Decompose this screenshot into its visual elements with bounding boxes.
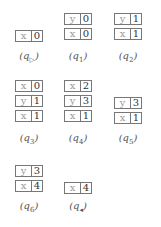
cell: x1 <box>64 110 92 122</box>
cell: y3 <box>64 95 92 107</box>
cell-key: x <box>65 183 81 193</box>
state-q-start-stack: x0 <box>15 30 43 45</box>
state-q5-stack: y3 x1 <box>114 97 142 127</box>
state-label: (q4) <box>58 132 98 146</box>
cell-key: y <box>16 166 32 176</box>
state-label: (q▷) <box>9 50 49 64</box>
cell: x0 <box>15 30 43 42</box>
cell-value: 3 <box>131 98 141 108</box>
cell-value: 1 <box>81 111 91 121</box>
cell-value: 2 <box>81 81 91 91</box>
state-label: (q6) <box>9 200 49 214</box>
cell-key: y <box>65 96 81 106</box>
cell-value: 1 <box>131 113 141 123</box>
cell-value: 0 <box>32 81 42 91</box>
cell-value: 0 <box>32 31 42 41</box>
cell: y1 <box>15 95 43 107</box>
state-q1-stack: y0 x0 <box>64 13 92 43</box>
cell: x1 <box>114 28 142 40</box>
cell-key: x <box>16 111 32 121</box>
state-q3-stack: x0 y1 x1 <box>15 80 43 125</box>
cell: y3 <box>114 97 142 109</box>
cell-value: 4 <box>81 183 91 193</box>
cell: x1 <box>114 112 142 124</box>
cell-key: y <box>16 96 32 106</box>
cell-key: y <box>115 14 131 24</box>
cell-key: x <box>65 29 81 39</box>
cell-key: x <box>65 111 81 121</box>
cell-key: x <box>115 29 131 39</box>
cell-key: x <box>16 181 32 191</box>
cell-value: 1 <box>32 111 42 121</box>
cell-value: 3 <box>32 166 42 176</box>
cell: y3 <box>15 165 43 177</box>
cell-key: x <box>65 81 81 91</box>
cell-value: 0 <box>81 14 91 24</box>
cell: x0 <box>15 80 43 92</box>
state-label: (q5) <box>108 132 148 146</box>
cell-key: y <box>115 98 131 108</box>
cell-key: x <box>16 31 32 41</box>
cell-value: 3 <box>81 96 91 106</box>
cell-key: x <box>16 81 32 91</box>
state-label: (q1) <box>58 50 98 64</box>
cell: x4 <box>15 180 43 192</box>
cell-value: 4 <box>32 181 42 191</box>
state-q6-stack: y3 x4 <box>15 165 43 195</box>
cell-key: y <box>65 14 81 24</box>
cell: y1 <box>114 13 142 25</box>
state-label: (q2) <box>108 50 148 64</box>
state-label: (q3) <box>9 132 49 146</box>
cell-value: 1 <box>131 14 141 24</box>
state-q-end-stack: x4 <box>64 182 92 197</box>
state-label: (q◂) <box>58 200 98 214</box>
cell-value: 1 <box>131 29 141 39</box>
cell: x1 <box>15 110 43 122</box>
cell-value: 0 <box>81 29 91 39</box>
cell: x4 <box>64 182 92 194</box>
state-q2-stack: y1 x1 <box>114 13 142 43</box>
cell-key: x <box>115 113 131 123</box>
cell-value: 1 <box>32 96 42 106</box>
cell: y0 <box>64 13 92 25</box>
cell: x2 <box>64 80 92 92</box>
cell: x0 <box>64 28 92 40</box>
state-q4-stack: x2 y3 x1 <box>64 80 92 125</box>
